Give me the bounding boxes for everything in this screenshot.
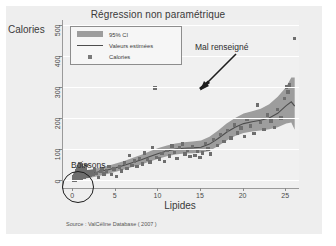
x-tick-label: 20 (233, 192, 253, 199)
scatter-point (201, 151, 204, 154)
scatter-point (95, 172, 98, 175)
scatter-point (112, 167, 115, 170)
scatter-point (120, 169, 123, 172)
scatter-point (233, 123, 236, 126)
scatter-point (243, 135, 246, 138)
x-tick-label: 0 (62, 192, 82, 199)
y-tick-label: 300 (55, 86, 62, 98)
scatter-point (123, 161, 126, 164)
scatter-point (110, 173, 113, 176)
scatter-point (239, 126, 242, 129)
scatter-point (133, 159, 136, 162)
scatter-point (198, 156, 201, 159)
legend-label-calories: Calories (109, 54, 130, 60)
scatter-point (188, 155, 191, 158)
scatter-point (229, 136, 232, 139)
gridline (63, 87, 299, 88)
gridline (63, 149, 299, 150)
scatter-point (273, 126, 276, 129)
gridline (63, 118, 299, 119)
scatter-point (168, 154, 171, 157)
scatter-point (293, 37, 296, 40)
source-note: Source : ValCéline Database ( 2007 ) (66, 221, 157, 227)
legend-marker-swatch (75, 51, 105, 62)
legend-item-ci: 95% CI (75, 29, 128, 40)
scatter-point (173, 151, 176, 154)
x-tick-mark (285, 188, 286, 191)
scatter-point (163, 160, 166, 163)
x-tick-mark (157, 188, 158, 191)
scatter-point (191, 145, 194, 148)
chart-figure: Régression non paramétrique Calories Lip… (0, 0, 336, 246)
legend-label-fitted: Valeurs estimées (109, 43, 153, 49)
y-tick-label: 100 (55, 149, 62, 161)
scatter-point (102, 172, 105, 175)
scatter-point (196, 150, 199, 153)
scatter-point (141, 162, 144, 165)
annotation-arrow-icon (196, 52, 238, 94)
y-tick-label: 200 (55, 118, 62, 130)
x-tick-mark (72, 188, 73, 191)
scatter-point (252, 132, 255, 135)
scatter-point (125, 167, 128, 170)
x-tick-label: 10 (147, 192, 167, 199)
scatter-point (170, 144, 173, 147)
legend-label-ci: 95% CI (109, 32, 128, 38)
x-tick-label: 25 (275, 192, 295, 199)
scatter-point (256, 103, 259, 106)
scatter-point (128, 154, 131, 157)
x-tick-mark (115, 188, 116, 191)
chart-title: Régression non paramétrique (0, 9, 316, 20)
scatter-point (158, 157, 161, 160)
scatter-point (226, 129, 229, 132)
scatter-point (97, 176, 100, 179)
scatter-point (143, 151, 146, 154)
scatter-point (160, 152, 163, 155)
scatter-point (107, 165, 110, 168)
legend-line-swatch (75, 40, 105, 51)
x-tick-mark (243, 188, 244, 191)
chart-legend: 95% CI Valeurs estimées Calories (70, 26, 182, 65)
y-axis-label: Calories (8, 24, 45, 35)
y-tick-label: 0 (55, 180, 62, 184)
y-tick-label: 500 (55, 24, 62, 36)
scatter-point (283, 97, 286, 100)
scatter-point (181, 142, 184, 145)
scatter-point (183, 152, 186, 155)
scatter-point (148, 160, 151, 163)
annotation-boissons: Boissons (71, 160, 106, 170)
scatter-point (115, 175, 118, 178)
y-tick-label: 400 (55, 55, 62, 67)
x-tick-label: 15 (190, 192, 210, 199)
gridline (63, 180, 299, 181)
x-tick-mark (200, 188, 201, 191)
scatter-point (130, 164, 133, 167)
legend-band-swatch (75, 29, 105, 40)
scatter-point (269, 119, 272, 122)
scatter-point (249, 124, 252, 127)
scatter-point (259, 121, 262, 124)
scatter-point (212, 138, 215, 141)
scatter-point (204, 142, 207, 145)
scatter-point (135, 165, 138, 168)
x-tick-label: 5 (105, 192, 125, 199)
annotation-mal-renseigne: Mal renseigné (195, 42, 248, 52)
scatter-point (219, 133, 222, 136)
legend-item-calories: Calories (75, 51, 130, 62)
x-axis-label: Lipides (62, 200, 298, 211)
scatter-point (175, 157, 178, 160)
scatter-point (266, 113, 269, 116)
scatter-point (216, 144, 219, 147)
scatter-point (138, 157, 141, 160)
scatter-point (209, 152, 212, 155)
scatter-point (286, 90, 289, 93)
scatter-point (222, 140, 225, 143)
scatter-point (276, 108, 279, 111)
scatter-point (193, 154, 196, 157)
legend-item-fitted: Valeurs estimées (75, 40, 153, 51)
scatter-point (236, 131, 239, 134)
scatter-point (262, 128, 265, 131)
